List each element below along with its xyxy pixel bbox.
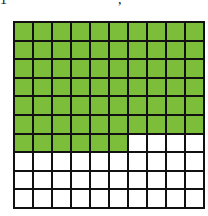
grid-cell-filled bbox=[15, 79, 32, 96]
grid-cell-filled bbox=[15, 23, 32, 40]
grid-cell-empty bbox=[72, 153, 89, 170]
grid-cell-filled bbox=[129, 60, 146, 77]
grid-cell-filled bbox=[53, 97, 70, 114]
grid-cell-empty bbox=[110, 172, 127, 189]
grid-cell-empty bbox=[15, 172, 32, 189]
grid-cell-filled bbox=[91, 79, 108, 96]
grid-cell-filled bbox=[91, 42, 108, 59]
grid-cell-empty bbox=[148, 153, 165, 170]
hundred-grid bbox=[13, 21, 205, 209]
grid-cell-filled bbox=[72, 60, 89, 77]
grid-cell-filled bbox=[34, 60, 51, 77]
grid-cell-filled bbox=[72, 79, 89, 96]
grid-cell-filled bbox=[34, 42, 51, 59]
grid-cell-empty bbox=[110, 190, 127, 207]
grid-cell-filled bbox=[186, 116, 203, 133]
grid-cell-filled bbox=[186, 97, 203, 114]
grid-cell-filled bbox=[110, 97, 127, 114]
grid-cell-empty bbox=[15, 190, 32, 207]
grid-cell-empty bbox=[148, 172, 165, 189]
grid-cell-empty bbox=[129, 135, 146, 152]
grid-cell-filled bbox=[15, 42, 32, 59]
grid-cell-filled bbox=[186, 79, 203, 96]
grid-cell-filled bbox=[129, 42, 146, 59]
grid-cell-filled bbox=[34, 23, 51, 40]
grid-cell-empty bbox=[72, 190, 89, 207]
grid-cell-empty bbox=[186, 153, 203, 170]
grid-cell-filled bbox=[110, 60, 127, 77]
grid-cell-filled bbox=[34, 97, 51, 114]
grid-cell-filled bbox=[15, 60, 32, 77]
grid-cell-empty bbox=[34, 190, 51, 207]
grid-cell-empty bbox=[110, 153, 127, 170]
grid-cell-empty bbox=[34, 172, 51, 189]
grid-cell-filled bbox=[167, 116, 184, 133]
grid-cell-filled bbox=[148, 97, 165, 114]
grid-cell-filled bbox=[148, 60, 165, 77]
grid-cell-filled bbox=[72, 42, 89, 59]
grid-cell-filled bbox=[53, 60, 70, 77]
grid-cell-filled bbox=[129, 23, 146, 40]
grid-cell-filled bbox=[91, 60, 108, 77]
grid-cell-filled bbox=[15, 135, 32, 152]
grid-cell-empty bbox=[15, 153, 32, 170]
grid-cell-empty bbox=[53, 153, 70, 170]
grid-cell-filled bbox=[53, 42, 70, 59]
grid-cell-filled bbox=[129, 79, 146, 96]
grid-cell-empty bbox=[167, 190, 184, 207]
grid-cell-filled bbox=[72, 97, 89, 114]
grid-cell-empty bbox=[91, 172, 108, 189]
grid-cell-filled bbox=[186, 60, 203, 77]
grid-cell-filled bbox=[15, 116, 32, 133]
grid-cell-filled bbox=[34, 116, 51, 133]
grid-cell-filled bbox=[72, 116, 89, 133]
grid-cell-filled bbox=[129, 97, 146, 114]
grid-cell-empty bbox=[167, 135, 184, 152]
grid-cell-empty bbox=[186, 190, 203, 207]
grid-cell-filled bbox=[15, 97, 32, 114]
grid-cell-empty bbox=[148, 135, 165, 152]
grid-cell-filled bbox=[91, 135, 108, 152]
grid-cell-filled bbox=[186, 42, 203, 59]
grid-cell-filled bbox=[110, 79, 127, 96]
grid-cell-filled bbox=[167, 60, 184, 77]
grid-cell-filled bbox=[91, 116, 108, 133]
grid-cell-filled bbox=[34, 79, 51, 96]
grid-cell-filled bbox=[53, 116, 70, 133]
grid-cell-filled bbox=[110, 23, 127, 40]
grid-cell-filled bbox=[167, 79, 184, 96]
grid-cell-empty bbox=[148, 190, 165, 207]
grid-cell-filled bbox=[148, 42, 165, 59]
grid-cell-empty bbox=[186, 172, 203, 189]
grid-cell-empty bbox=[129, 172, 146, 189]
grid-cell-filled bbox=[34, 135, 51, 152]
cut-off-text-fragment: , bbox=[118, 0, 122, 8]
grid-cell-filled bbox=[129, 116, 146, 133]
grid-cell-filled bbox=[186, 23, 203, 40]
grid-cell-empty bbox=[53, 190, 70, 207]
grid-cell-filled bbox=[167, 23, 184, 40]
grid-cell-empty bbox=[167, 172, 184, 189]
grid-cell-empty bbox=[91, 153, 108, 170]
grid-cell-empty bbox=[186, 135, 203, 152]
grid-cell-empty bbox=[129, 153, 146, 170]
cut-off-text-fragment: 1 bbox=[0, 0, 7, 8]
grid-cell-filled bbox=[72, 135, 89, 152]
grid-cell-empty bbox=[129, 190, 146, 207]
grid-cell-filled bbox=[53, 79, 70, 96]
grid-cell-empty bbox=[53, 172, 70, 189]
grid-cell-filled bbox=[148, 79, 165, 96]
grid-cell-empty bbox=[91, 190, 108, 207]
grid-cell-filled bbox=[110, 116, 127, 133]
grid-cell-filled bbox=[167, 97, 184, 114]
grid-cell-filled bbox=[91, 23, 108, 40]
grid-cell-filled bbox=[91, 97, 108, 114]
grid-cell-empty bbox=[72, 172, 89, 189]
grid-cell-filled bbox=[167, 42, 184, 59]
grid-cell-empty bbox=[167, 153, 184, 170]
grid-cell-filled bbox=[53, 23, 70, 40]
grid-cell-empty bbox=[34, 153, 51, 170]
grid-cell-filled bbox=[53, 135, 70, 152]
grid-cell-filled bbox=[110, 42, 127, 59]
grid-cell-filled bbox=[148, 116, 165, 133]
